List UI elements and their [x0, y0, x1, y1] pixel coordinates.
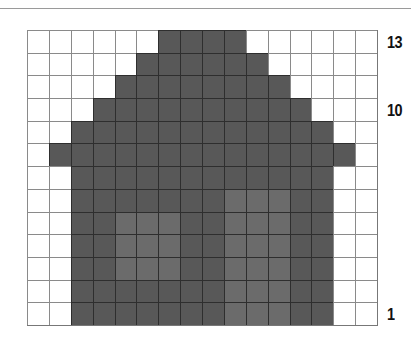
grid-cell	[93, 166, 115, 189]
grid-cell	[136, 53, 158, 76]
grid-cell	[115, 212, 137, 235]
grid-cell	[290, 53, 312, 76]
grid-cell	[180, 257, 202, 280]
grid-cell	[136, 302, 158, 325]
grid-cell	[27, 280, 49, 303]
grid-cell	[311, 212, 333, 235]
grid-cell	[71, 189, 93, 212]
grid-cell	[71, 53, 93, 76]
grid-cell	[246, 257, 268, 280]
grid-cell	[224, 302, 246, 325]
grid-cell	[355, 257, 377, 280]
grid-cell	[224, 75, 246, 98]
grid-cell	[246, 234, 268, 257]
grid-cell	[158, 280, 180, 303]
grid-cell	[93, 302, 115, 325]
grid-cell	[136, 30, 158, 53]
grid-cell	[202, 53, 224, 76]
grid-cell	[180, 189, 202, 212]
grid-cell	[355, 280, 377, 303]
grid-cell	[180, 280, 202, 303]
grid-cell	[290, 30, 312, 53]
grid-cell	[49, 98, 71, 121]
grid-cell	[158, 121, 180, 144]
grid-cell	[115, 189, 137, 212]
grid-cell	[93, 53, 115, 76]
grid-cell	[333, 212, 355, 235]
grid-cell	[180, 75, 202, 98]
grid-cell	[268, 143, 290, 166]
grid-cell	[224, 257, 246, 280]
grid-cell	[290, 302, 312, 325]
grid-cell	[290, 143, 312, 166]
grid-cell	[115, 257, 137, 280]
grid-cell	[246, 166, 268, 189]
grid-cell	[136, 121, 158, 144]
grid-cell	[136, 166, 158, 189]
grid-cell	[268, 121, 290, 144]
grid-cell	[333, 30, 355, 53]
row-label-10: 10	[387, 101, 402, 121]
grid-cell	[71, 212, 93, 235]
grid-cell	[311, 234, 333, 257]
grid-cell	[355, 98, 377, 121]
grid-cell	[27, 121, 49, 144]
grid-cell	[224, 189, 246, 212]
grid-cell	[333, 302, 355, 325]
grid-cell	[27, 257, 49, 280]
grid-cell	[49, 30, 71, 53]
grid-cell	[136, 280, 158, 303]
grid-cell	[49, 302, 71, 325]
grid-cell	[333, 234, 355, 257]
grid-cell	[246, 121, 268, 144]
grid-cell	[158, 302, 180, 325]
grid-cell	[311, 280, 333, 303]
grid-cell	[246, 143, 268, 166]
grid-cell	[71, 257, 93, 280]
grid-cell	[180, 98, 202, 121]
grid-cell	[180, 234, 202, 257]
grid-cell	[27, 75, 49, 98]
top-divider	[0, 8, 411, 9]
grid-cell	[93, 75, 115, 98]
grid-cell	[246, 53, 268, 76]
grid-cell	[93, 121, 115, 144]
grid-cell	[202, 30, 224, 53]
grid-cell	[224, 53, 246, 76]
grid-cell	[49, 257, 71, 280]
grid-cell	[246, 212, 268, 235]
grid-cell	[71, 98, 93, 121]
grid-cell	[27, 53, 49, 76]
grid-cell	[71, 234, 93, 257]
grid-cell	[71, 166, 93, 189]
grid-cell	[115, 121, 137, 144]
grid-cell	[49, 53, 71, 76]
grid-cell	[202, 143, 224, 166]
grid-cell	[246, 280, 268, 303]
grid-cell	[311, 121, 333, 144]
grid-cell	[180, 53, 202, 76]
grid-cell	[136, 143, 158, 166]
grid-cell	[202, 280, 224, 303]
grid-cell	[311, 166, 333, 189]
grid-cell	[115, 98, 137, 121]
grid-cell	[158, 234, 180, 257]
grid-cell	[268, 189, 290, 212]
grid-cell	[246, 98, 268, 121]
grid-cell	[333, 121, 355, 144]
grid-cell	[224, 234, 246, 257]
grid-cell	[136, 212, 158, 235]
grid-cell	[333, 98, 355, 121]
grid-cell	[49, 166, 71, 189]
grid-cell	[268, 166, 290, 189]
grid-cell	[71, 302, 93, 325]
grid-cell	[158, 75, 180, 98]
grid-cell	[115, 234, 137, 257]
grid-cell	[158, 257, 180, 280]
grid-cell	[268, 30, 290, 53]
grid-cell	[115, 75, 137, 98]
grid-cell	[311, 189, 333, 212]
row-label-1: 1	[387, 305, 395, 325]
grid-cell	[158, 53, 180, 76]
grid-cell	[202, 189, 224, 212]
